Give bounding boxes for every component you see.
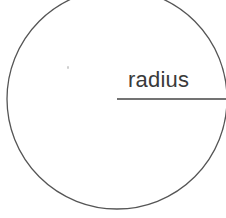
circle-outline [7,0,226,209]
scan-artifact [67,66,69,69]
circle-diagram [0,0,226,218]
radius-label: radius [128,69,189,91]
